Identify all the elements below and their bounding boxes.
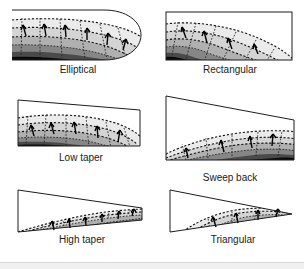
panel-low-taper [14, 96, 148, 152]
elliptical-diagram [8, 4, 148, 66]
panel-rectangular [162, 4, 298, 66]
caption-high-taper: High taper [14, 234, 150, 245]
sweep-back-diagram [160, 92, 300, 172]
triangular-diagram [166, 186, 300, 236]
caption-sweep-back: Sweep back [160, 172, 300, 183]
panel-high-taper [14, 186, 150, 236]
panel-elliptical [8, 4, 148, 66]
caption-low-taper: Low taper [14, 152, 148, 163]
low-taper-diagram [14, 96, 148, 152]
caption-triangular: Triangular [166, 234, 300, 245]
panel-sweep-back [160, 92, 300, 172]
bottom-strip [0, 262, 304, 269]
rectangular-diagram [162, 4, 298, 66]
high-taper-diagram [14, 186, 150, 236]
caption-elliptical: Elliptical [8, 64, 148, 75]
caption-rectangular: Rectangular [162, 64, 298, 75]
panel-triangular [166, 186, 300, 236]
